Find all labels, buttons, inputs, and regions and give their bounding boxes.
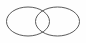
venn-diagram-canvas — [0, 0, 86, 43]
figure-background — [0, 0, 86, 43]
venn-diagram-figure — [0, 0, 86, 43]
